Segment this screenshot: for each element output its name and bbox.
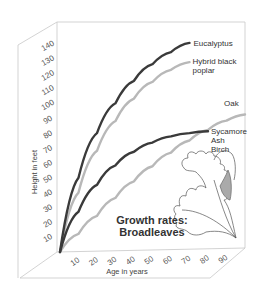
x-tick-label: 10 bbox=[69, 255, 82, 268]
x-tick-label: 30 bbox=[106, 255, 119, 268]
y-axis-ticks: 102030405060708090100110120130140 bbox=[40, 38, 57, 244]
y-tick-label: 120 bbox=[40, 68, 57, 83]
x-tick-label: 90 bbox=[217, 253, 230, 266]
x-tick-label: 20 bbox=[87, 255, 100, 268]
x-tick-label: 50 bbox=[143, 254, 156, 267]
y-tick-label: 80 bbox=[42, 128, 55, 141]
growth-rate-chart: 102030405060708090100110120130140 102030… bbox=[0, 0, 261, 295]
x-axis-title: Age in years bbox=[106, 267, 148, 276]
title-line-1: Growth rates: bbox=[116, 214, 188, 226]
y-tick-label: 40 bbox=[42, 187, 55, 200]
title-line-2: Broadleaves bbox=[119, 226, 184, 238]
x-tick-label: 80 bbox=[198, 253, 211, 266]
y-axis-title: Height in feet bbox=[30, 149, 39, 194]
series-label: Birch bbox=[211, 145, 229, 154]
x-axis-ticks: 102030405060708090 bbox=[69, 253, 230, 268]
y-tick-label: 130 bbox=[40, 53, 57, 68]
x-tick-label: 40 bbox=[124, 254, 137, 267]
y-tick-label: 70 bbox=[42, 143, 55, 156]
x-tick-label: 70 bbox=[180, 253, 193, 266]
x-tick-label: 60 bbox=[161, 254, 174, 267]
series-label: Oak bbox=[224, 99, 240, 108]
y-tick-label: 20 bbox=[42, 217, 55, 230]
series-label: Sycamore bbox=[211, 127, 248, 136]
y-tick-label: 140 bbox=[40, 38, 57, 53]
y-tick-label: 100 bbox=[40, 97, 57, 112]
y-tick-label: 60 bbox=[42, 158, 55, 171]
series-label: Eucalyptus bbox=[194, 39, 233, 48]
series-labels: OakHybrid blackpoplarSycamoreAshBirchEuc… bbox=[193, 39, 248, 154]
chart-title: Growth rates: Broadleaves bbox=[116, 214, 188, 238]
y-tick-label: 30 bbox=[42, 202, 55, 215]
y-tick-label: 110 bbox=[40, 83, 56, 97]
y-tick-label: 10 bbox=[42, 232, 55, 245]
series-label: Hybrid black bbox=[193, 57, 238, 66]
series-label: Ash bbox=[211, 136, 225, 145]
series-label: poplar bbox=[193, 66, 216, 75]
y-tick-label: 50 bbox=[42, 173, 55, 186]
y-tick-label: 90 bbox=[42, 113, 55, 126]
